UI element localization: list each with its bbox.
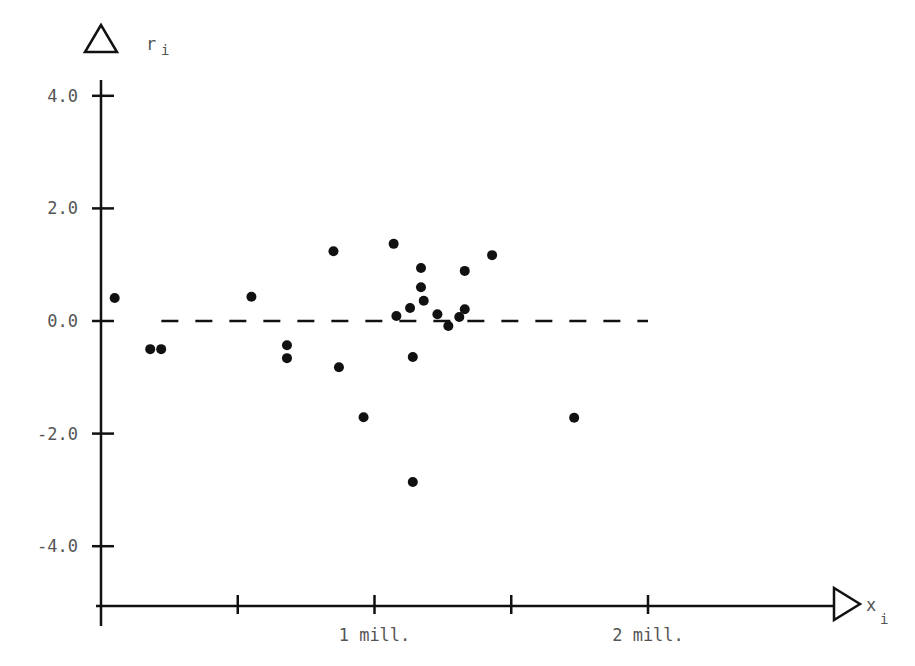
data-point xyxy=(416,282,426,292)
x-axis-label-subscript: i xyxy=(880,611,888,627)
data-point xyxy=(419,296,429,306)
data-point xyxy=(405,303,415,313)
data-point xyxy=(408,477,418,487)
data-point xyxy=(110,293,120,303)
y-tick-label: 2.0 xyxy=(47,198,78,218)
data-point xyxy=(391,311,401,321)
data-point xyxy=(460,266,470,276)
x-axis-arrow-icon xyxy=(834,588,860,620)
data-point xyxy=(282,340,292,350)
data-point xyxy=(246,292,256,302)
data-point xyxy=(334,362,344,372)
y-tick-label: 0.0 xyxy=(47,311,78,331)
x-tick-label: 2 mill. xyxy=(612,625,684,645)
x-tick-label: 1 mill. xyxy=(339,625,411,645)
y-axis-arrow-icon xyxy=(85,25,117,52)
y-axis-label-subscript: i xyxy=(161,42,169,58)
data-point xyxy=(389,239,399,249)
scatter-chart: 4.02.00.0-2.0-4.0 1 mill.2 mill. r i x i xyxy=(0,0,915,666)
data-point xyxy=(432,309,442,319)
x-axis-label: x xyxy=(866,595,876,615)
y-tick-label: -2.0 xyxy=(37,424,78,444)
y-axis-label: r xyxy=(146,34,156,54)
data-point xyxy=(282,353,292,363)
y-ticks: 4.02.00.0-2.0-4.0 xyxy=(37,86,114,556)
x-ticks: 1 mill.2 mill. xyxy=(238,595,684,645)
data-point xyxy=(443,321,453,331)
y-tick-label: 4.0 xyxy=(47,86,78,106)
data-point xyxy=(408,352,418,362)
data-points xyxy=(110,239,579,487)
data-point xyxy=(156,344,166,354)
data-point xyxy=(487,250,497,260)
data-point xyxy=(328,246,338,256)
data-point xyxy=(145,344,155,354)
data-point xyxy=(569,413,579,423)
data-point xyxy=(359,412,369,422)
data-point xyxy=(460,304,470,314)
y-tick-label: -4.0 xyxy=(37,536,78,556)
data-point xyxy=(416,263,426,273)
